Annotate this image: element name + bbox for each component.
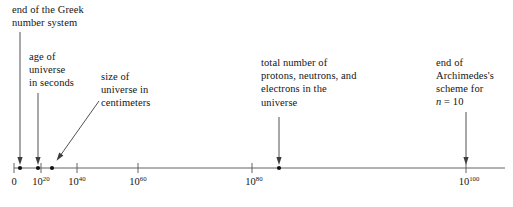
ticklabel-1e100-mantissa: 10 bbox=[459, 176, 470, 187]
ticklabel-1e20: 1020 bbox=[32, 176, 49, 188]
ticklabel-1e80: 1080 bbox=[245, 176, 262, 188]
ticklabel-1e60-mantissa: 10 bbox=[129, 176, 140, 187]
ticklabel-1e40-mantissa: 10 bbox=[68, 176, 79, 187]
ticklabel-1e40-exponent: 40 bbox=[79, 175, 86, 182]
datapoint-greek-number-system bbox=[18, 166, 22, 170]
ticklabel-1e100: 10100 bbox=[459, 176, 480, 188]
ticklabel-1e80-exponent: 80 bbox=[256, 175, 263, 182]
datapoint-total-particles bbox=[277, 166, 281, 170]
ticklabel-1e60: 1060 bbox=[129, 176, 146, 188]
number-line-figure: end of the Greek number system age of un… bbox=[0, 0, 513, 207]
datapoint-age-of-universe bbox=[36, 166, 40, 170]
ticklabel-1e20-exponent: 20 bbox=[43, 175, 50, 182]
ticklabel-0: 0 bbox=[11, 176, 16, 188]
ticklabel-1e20-mantissa: 10 bbox=[32, 176, 43, 187]
ticklabel-1e80-mantissa: 10 bbox=[245, 176, 256, 187]
ticklabel-1e100-exponent: 100 bbox=[469, 175, 479, 182]
ticklabel-1e60-exponent: 60 bbox=[140, 175, 147, 182]
datapoint-size-of-universe bbox=[50, 166, 54, 170]
ticklabel-1e40: 1040 bbox=[68, 176, 85, 188]
ticklabel-0-mantissa: 0 bbox=[11, 176, 16, 187]
